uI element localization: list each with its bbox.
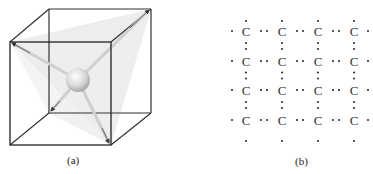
carbon-atom: C [350,25,359,38]
carbon-atom: C [314,55,323,68]
carbon-atom-sphere [66,68,90,92]
carbon-atom: C [242,84,251,97]
carbon-atom: C [314,114,323,127]
carbon-atom: C [242,114,251,127]
carbon-atom: C [350,84,359,97]
carbon-atom: C [278,84,287,97]
carbon-atom: C [350,114,359,127]
electron-dots [231,20,369,142]
carbon-atom: C [242,25,251,38]
carbon-atom: C [314,84,323,97]
carbon-atom: C [314,25,323,38]
carbon-atom: C [242,55,251,68]
carbon-atom: C [350,55,359,68]
carbon-atom: C [278,55,287,68]
panel-b-label: (b) [295,155,308,167]
carbon-atom: C [278,114,287,127]
carbon-atom: C [278,25,287,38]
panel-a-label: (a) [67,154,79,166]
